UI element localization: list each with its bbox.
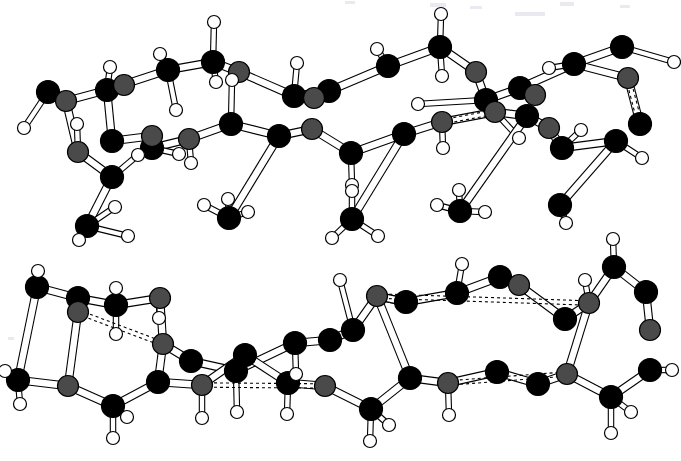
- atom-n: [315, 376, 336, 397]
- atom-h: [18, 122, 31, 135]
- atom-h: [173, 148, 186, 161]
- atom-c: [157, 59, 180, 82]
- atom-n: [68, 142, 89, 163]
- atom-c: [600, 386, 623, 409]
- atom-h: [198, 199, 211, 212]
- atom-n: [153, 334, 174, 355]
- atom-h: [121, 411, 134, 424]
- atom-c: [342, 319, 365, 342]
- scan-artifact: [345, 1, 355, 4]
- atom-h: [14, 398, 27, 411]
- scan-artifact: [620, 5, 630, 8]
- atom-h: [226, 74, 239, 87]
- atom-n: [438, 373, 459, 394]
- atom-c: [234, 344, 257, 367]
- atom-h: [104, 61, 117, 74]
- atom-h: [222, 193, 235, 206]
- atom-n: [367, 286, 388, 307]
- atom-c: [527, 373, 550, 396]
- atom-h: [346, 185, 359, 198]
- atom-c: [399, 367, 422, 390]
- atom-c: [639, 359, 662, 382]
- atom-n: [150, 288, 171, 309]
- atom-h: [154, 48, 167, 61]
- atom-h: [443, 409, 456, 422]
- atom-h: [636, 152, 649, 165]
- atom-h: [412, 98, 425, 111]
- atom-n: [58, 376, 79, 397]
- atom-h: [666, 364, 679, 377]
- atom-c: [218, 207, 241, 230]
- atom-h: [479, 206, 492, 219]
- atom-o: [114, 75, 135, 96]
- atom-h: [0, 365, 12, 378]
- atom-h: [435, 8, 448, 21]
- atom-h: [32, 265, 45, 278]
- atom-c: [268, 125, 291, 148]
- atom-h: [436, 70, 449, 83]
- atom-n: [485, 102, 506, 123]
- atom-c: [377, 55, 400, 78]
- atom-h: [71, 118, 84, 131]
- atom-h: [196, 412, 209, 425]
- atom-c: [449, 200, 472, 223]
- atom-h: [364, 435, 377, 448]
- atom-h: [543, 62, 556, 75]
- atom-c: [147, 371, 170, 394]
- atom-h: [281, 408, 294, 421]
- atom-h: [453, 184, 466, 197]
- atom-h: [371, 43, 384, 56]
- atom-h: [456, 258, 469, 271]
- atom-n: [557, 364, 578, 385]
- atom-c: [393, 123, 416, 146]
- atom-n: [302, 119, 323, 140]
- atom-c: [486, 361, 509, 384]
- atom-c: [603, 256, 626, 279]
- atom-h: [605, 427, 618, 440]
- atom-c: [180, 350, 203, 373]
- atom-c: [563, 53, 586, 76]
- atom-h: [383, 419, 396, 432]
- atom-c: [611, 36, 634, 59]
- atom-h: [110, 282, 123, 295]
- atom-h: [109, 201, 122, 214]
- scan-artifact: [430, 3, 446, 7]
- atom-h: [107, 432, 120, 445]
- atom-c: [105, 294, 128, 317]
- atom-h: [607, 233, 620, 246]
- atom-c: [340, 142, 363, 165]
- atom-h: [372, 230, 385, 243]
- atom-n: [432, 112, 453, 133]
- atom-n: [142, 126, 163, 147]
- scan-artifact: [560, 2, 574, 6]
- atom-c: [635, 281, 658, 304]
- atom-c: [284, 332, 307, 355]
- atom-h: [122, 230, 135, 243]
- atom-n: [525, 85, 546, 106]
- atom-c: [549, 194, 572, 217]
- atom-c: [360, 398, 383, 421]
- atom-h: [437, 142, 450, 155]
- atom-h: [290, 368, 303, 381]
- atom-h: [242, 206, 255, 219]
- atom-h: [110, 328, 123, 341]
- atom-n: [192, 375, 213, 396]
- atom-c: [446, 282, 469, 305]
- atom-n: [56, 91, 77, 112]
- atom-c: [319, 329, 342, 352]
- atom-n: [579, 293, 600, 314]
- atom-h: [431, 199, 444, 212]
- atom-h: [210, 76, 223, 89]
- atom-h: [560, 217, 573, 230]
- atom-c: [101, 166, 124, 189]
- atom-n: [539, 118, 560, 139]
- atom-c: [629, 113, 652, 136]
- atom-h: [170, 104, 183, 117]
- atom-c: [605, 130, 628, 153]
- atom-n: [509, 275, 530, 296]
- atom-c: [26, 276, 49, 299]
- atom-c: [551, 137, 574, 160]
- atom-n: [304, 88, 325, 109]
- atom-c: [554, 308, 577, 331]
- atom-h: [513, 132, 526, 145]
